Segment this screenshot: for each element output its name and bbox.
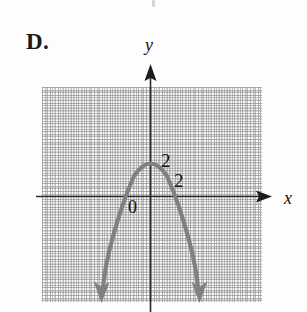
x-axis-label: x [284, 189, 292, 207]
figure-root: D. y x 0 2 2 [0, 0, 307, 312]
y-axis-label: y [145, 36, 153, 54]
x-intercept-value-label: 2 [174, 171, 184, 190]
vertex-value-label: 2 [161, 151, 171, 170]
plot-canvas [0, 0, 307, 312]
origin-label: 0 [128, 198, 137, 216]
